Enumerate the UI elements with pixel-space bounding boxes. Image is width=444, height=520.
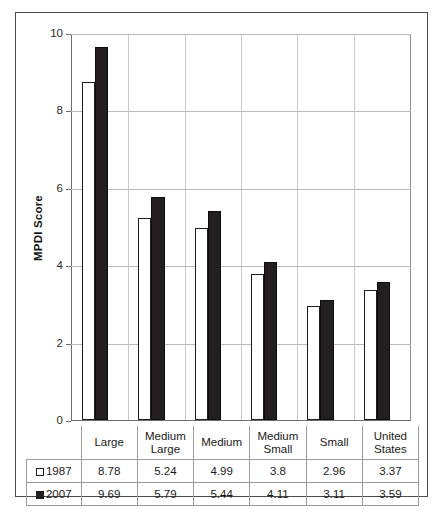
table-corner-cell [27,426,82,460]
table-cell: 4.99 [194,460,250,483]
y-tick-mark [66,266,71,267]
legend-label: 2007 [46,488,72,500]
table-column-header: MediumLarge [137,426,193,460]
table-cell: 5.24 [137,460,193,483]
y-tick-label: 6 [57,183,63,195]
bar-1987-medium-small[interactable] [251,274,264,420]
bar-2007-medium[interactable] [208,211,221,420]
category-separator [354,35,355,420]
bars-layer [72,35,410,420]
table-cell: 9.69 [81,483,137,506]
bar-group [128,35,184,420]
bar-1987-large[interactable] [82,82,95,420]
table-cell: 2.96 [306,460,362,483]
bar-2007-small[interactable] [320,300,333,420]
bar-1987-small[interactable] [307,306,320,420]
table-cell: 3.8 [250,460,306,483]
y-tick-mark [66,34,71,35]
bar-1987-medium[interactable] [195,228,208,420]
plot-region: 0246810 [71,34,411,421]
legend-entry-1987[interactable]: 1987 [27,460,82,483]
table-cell: 3.59 [362,483,418,506]
bar-group [354,35,410,420]
table-column-header: UnitedStates [362,426,418,460]
category-separator [128,35,129,420]
table-row: 19878.785.244.993.82.963.37 [27,460,419,483]
bar-group [72,35,128,420]
bar-group [241,35,297,420]
table-row: 20079.695.795.444.113.113.59 [27,483,419,506]
table-cell: 3.11 [306,483,362,506]
data-table: LargeMediumLargeMediumMediumSmallSmallUn… [26,426,419,506]
y-tick-label: 2 [57,338,63,350]
y-tick-mark [66,344,71,345]
table-cell: 4.11 [250,483,306,506]
y-axis-title-text: MPDI Score [32,195,44,261]
bar-2007-large[interactable] [95,47,108,420]
legend-label: 1987 [46,465,72,477]
legend-swatch-icon [36,491,44,499]
y-tick-mark [66,111,71,112]
table-column-header: Small [306,426,362,460]
table-cell: 5.79 [137,483,193,506]
bar-2007-united-states[interactable] [377,282,390,420]
y-tick-mark [66,421,71,422]
legend-entry-2007[interactable]: 2007 [27,483,82,506]
y-tick-label: 8 [57,106,63,118]
table-column-header: Medium [194,426,250,460]
bar-group [297,35,353,420]
bar-2007-medium-small[interactable] [264,262,277,420]
bar-group [185,35,241,420]
y-tick-label: 10 [50,28,63,40]
bar-2007-medium-large[interactable] [151,197,164,420]
table-cell: 3.37 [362,460,418,483]
bar-1987-medium-large[interactable] [138,218,151,420]
y-tick-mark [66,189,71,190]
category-separator [241,35,242,420]
table-header-row: LargeMediumLargeMediumMediumSmallSmallUn… [27,426,419,460]
category-separator [297,35,298,420]
table-cell: 5.44 [194,483,250,506]
x-axis-line [71,420,411,421]
category-separator [185,35,186,420]
table-cell: 8.78 [81,460,137,483]
chart-frame: MPDI Score 0246810 LargeMediumLargeMediu… [15,12,428,497]
bar-1987-united-states[interactable] [364,290,377,420]
table-column-header: Large [81,426,137,460]
table-column-header: MediumSmall [250,426,306,460]
y-axis-title: MPDI Score [30,34,46,421]
y-tick-label: 4 [57,260,63,272]
legend-swatch-icon [36,468,44,476]
